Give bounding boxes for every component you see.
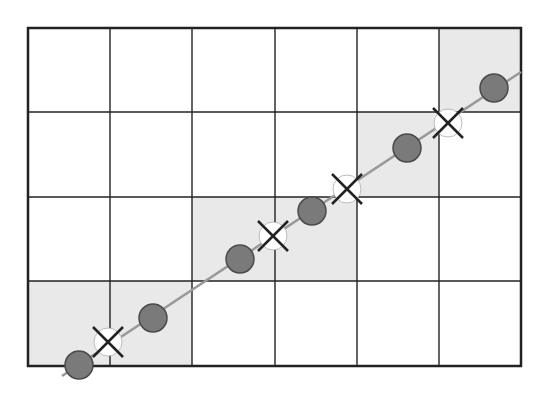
intersection-x-icon (332, 174, 362, 204)
sample-point-circle-icon (480, 74, 508, 102)
intersection-x-icon (93, 327, 123, 357)
intersection-x-icon (433, 108, 463, 138)
intersection-x-icon (258, 221, 288, 251)
sample-point-circle-icon (226, 245, 254, 273)
sample-point-circle-icon (393, 134, 421, 162)
sample-point-circle-icon (65, 351, 93, 379)
sample-point-circle-icon (298, 197, 326, 225)
grid-traversal-diagram (0, 0, 545, 395)
sample-point-circle-icon (139, 304, 167, 332)
